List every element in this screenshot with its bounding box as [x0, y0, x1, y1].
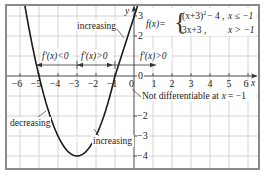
x-tick-label: 5 — [227, 78, 232, 89]
x-tick-label: −6 — [12, 78, 23, 89]
formula-piece-1-condition: x ≤ −1 — [227, 11, 253, 21]
x-axis-label: x — [250, 78, 256, 88]
y-tick-label: −2 — [137, 110, 148, 121]
increasing-top-leader — [117, 29, 124, 38]
x-tick-label: −2 — [88, 78, 99, 89]
formula-piece-2-condition: x > −1 — [227, 25, 255, 35]
derivative-negative-label: f′(x)<0 — [42, 51, 69, 62]
x-tick-label: −3 — [69, 78, 80, 89]
function-definition: f(x)= { (x+3)2− 4 , x ≤ −1 3x+3 , x > −1 — [144, 7, 256, 36]
x-tick-label: 3 — [189, 78, 194, 89]
formula-piece-2: 3x+3 , — [182, 25, 206, 35]
y-axis-label: y — [124, 6, 130, 16]
x-tick-label: −4 — [50, 78, 61, 89]
derivative-positive-label-2: f′(x)>0 — [140, 51, 167, 62]
y-zero-label: 0 — [138, 70, 143, 81]
origin-label: 0 — [129, 78, 134, 89]
y-tick-label: −4 — [137, 150, 148, 161]
derivative-intervals: f′(x)<0 f′(x)>0 f′(x)>0 — [36, 49, 172, 69]
y-tick-label: −3 — [137, 130, 148, 141]
increasing-label-bottom: increasing — [93, 136, 132, 146]
arrow-right-icon — [107, 63, 113, 67]
arrow-left-icon — [77, 63, 83, 67]
decreasing-label: decreasing — [10, 118, 51, 128]
x-tick-label: 2 — [170, 78, 175, 89]
formula-lhs: f(x)= — [146, 19, 166, 30]
piecewise-function-chart: −6 −5 −4 −3 −2 −1 1 2 3 4 5 6 x 0 3 2 0 … — [0, 0, 264, 178]
x-tick-label: 4 — [208, 78, 213, 89]
increasing-label-top: increasing — [77, 21, 116, 31]
y-tick-label: 2 — [138, 30, 143, 41]
derivative-positive-label-1: f′(x)>0 — [81, 51, 108, 62]
y-tick-label: 3 — [138, 10, 143, 21]
not-differentiable-label: Not differentiable atx= −1 — [142, 91, 246, 101]
x-tick-label: 1 — [152, 78, 157, 89]
x-tick-label: 6 — [244, 78, 249, 89]
